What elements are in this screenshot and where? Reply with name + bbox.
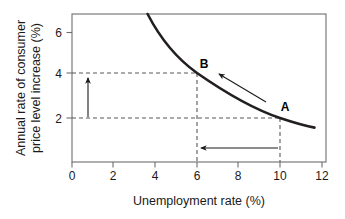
x-tick-label-10: 10 <box>273 169 287 183</box>
y-tick-label-6: 6 <box>55 26 62 40</box>
y-tick-labels: 6 4 2 <box>55 26 62 126</box>
y-axis-title-line-1: Annual rate of consumer <box>14 20 28 156</box>
x-tick-label-12: 12 <box>315 169 329 183</box>
y-tick-label-4: 4 <box>55 67 62 81</box>
chart-canvas: 6 4 2 0 2 4 6 8 10 12 A B Unemployment r… <box>0 0 345 219</box>
x-tick-label-2: 2 <box>110 169 117 183</box>
y-axis-ticks <box>67 33 73 119</box>
x-tick-label-0: 0 <box>69 169 76 183</box>
x-tick-label-8: 8 <box>235 169 242 183</box>
plot-frame <box>72 14 326 162</box>
y-tick-label-2: 2 <box>55 112 62 126</box>
x-axis-title: Unemployment rate (%) <box>133 194 265 208</box>
x-axis-ticks <box>72 162 322 168</box>
x-tick-label-4: 4 <box>152 169 159 183</box>
x-tick-label-6: 6 <box>194 169 201 183</box>
y-axis-title: Annual rate of consumer price level incr… <box>14 20 43 156</box>
point-label-b: B <box>200 57 209 71</box>
point-label-a: A <box>281 100 290 114</box>
y-axis-title-line-2: price level increase (%) <box>29 23 43 153</box>
x-tick-labels: 0 2 4 6 8 10 12 <box>69 169 329 183</box>
phillips-curve-figure: 6 4 2 0 2 4 6 8 10 12 A B Unemployment r… <box>0 0 345 219</box>
